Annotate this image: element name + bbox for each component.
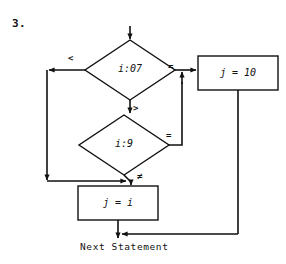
edge-not-equal (124, 175, 131, 185)
decision-i-9-label: i:9 (100, 139, 148, 149)
process-j-10-label: j = 10 (205, 68, 271, 78)
process-j-i-label: j = i (85, 198, 151, 208)
branch-label-equal-second: = (166, 131, 171, 140)
branch-label-not-equal: ≠ (137, 172, 142, 181)
next-statement-caption: Next Statement (80, 242, 168, 252)
branch-label-equal-first: = (168, 62, 173, 71)
branch-label-less-than: < (68, 54, 73, 63)
decision-i-07-label: i:07 (106, 64, 154, 74)
branch-label-greater-than: > (133, 104, 138, 113)
flowchart-page: 3. (0, 0, 286, 264)
flowchart-canvas (0, 0, 286, 264)
